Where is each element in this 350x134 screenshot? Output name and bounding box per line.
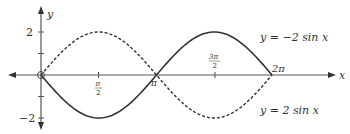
x-axis: x (8, 69, 346, 82)
y-tick-2: 2 (26, 26, 33, 39)
x-tick-pi-half-num: π (95, 80, 101, 88)
series-label-2-sin-x: y = 2 sin x (259, 104, 320, 117)
x-tick-3pi-half-num: 3π (209, 53, 218, 61)
y-tick-neg2: −2 (19, 112, 35, 125)
x-tick-pi: π (150, 78, 158, 88)
x-axis-label: x (339, 69, 346, 82)
y-axis: y 2 −2 (19, 6, 54, 130)
x-axis-left-arrow-icon (8, 72, 16, 78)
x-tick-pi-half-den: 2 (96, 89, 100, 97)
y-axis-up-arrow-icon (38, 6, 44, 14)
x-tick-3pi-half-den: 2 (213, 62, 217, 70)
y-axis-down-arrow-icon (38, 122, 44, 130)
sine-chart: x y 2 −2 π 2 π 3π 2 2π y = −2 sin x y = … (0, 0, 350, 134)
x-tick-2pi: 2π (271, 63, 285, 74)
x-axis-right-arrow-icon (328, 72, 336, 78)
series-label-neg-2-sin-x: y = −2 sin x (259, 31, 329, 44)
y-axis-label: y (46, 8, 54, 21)
